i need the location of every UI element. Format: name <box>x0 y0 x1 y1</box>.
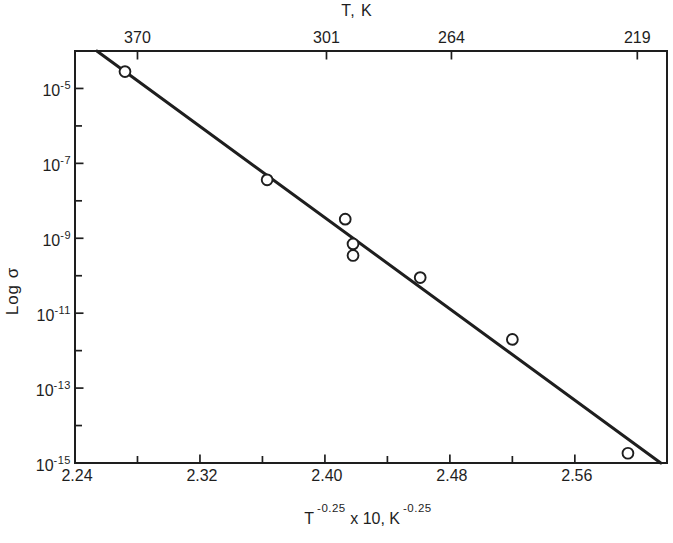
y-tick-label: 10-7 <box>0 151 71 176</box>
top-tick-label: 301 <box>296 29 356 47</box>
y-tick-base: 10 <box>36 382 54 399</box>
y-tick-label: 10-5 <box>0 76 71 101</box>
y-tick-exponent: -5 <box>60 79 71 91</box>
top-tick-label: 219 <box>607 29 667 47</box>
figure: T, K Log σ T-0.25 x 10, K-0.25 2.242.322… <box>0 0 673 543</box>
x-axis-title: T-0.25 x 10, K-0.25 <box>158 508 578 528</box>
plot-area <box>0 0 673 543</box>
data-point-marker <box>507 334 518 345</box>
data-point-marker <box>120 66 131 77</box>
y-tick-base: 10 <box>42 233 60 250</box>
y-tick-label: 10-11 <box>0 301 71 326</box>
y-tick-base: 10 <box>36 457 54 474</box>
data-point-marker <box>340 214 351 225</box>
x-title-exponent-1: -0.25 <box>317 502 346 514</box>
x-title-exponent-2: -0.25 <box>403 502 432 514</box>
top-axis-title: T, K <box>307 2 407 20</box>
y-tick-label: 10-9 <box>0 226 71 251</box>
y-tick-exponent: -9 <box>60 229 71 241</box>
x-tick-label: 2.48 <box>422 467 482 485</box>
x-title-middle: x 10, K <box>346 510 400 527</box>
y-tick-exponent: -13 <box>54 379 71 391</box>
top-tick-label: 264 <box>421 29 481 47</box>
y-tick-label: 10-15 <box>0 451 71 476</box>
data-point-marker <box>348 250 359 261</box>
fit-line <box>97 51 661 463</box>
top-tick-label: 370 <box>107 29 167 47</box>
y-tick-label: 10-13 <box>0 376 71 401</box>
data-point-marker <box>348 238 359 249</box>
y-tick-base: 10 <box>42 83 60 100</box>
x-tick-label: 2.56 <box>547 467 607 485</box>
data-point-marker <box>262 174 273 185</box>
y-tick-exponent: -7 <box>60 154 71 166</box>
y-tick-exponent: -15 <box>54 454 71 466</box>
y-tick-base: 10 <box>42 158 60 175</box>
y-tick-base: 10 <box>37 308 55 325</box>
y-tick-exponent: -11 <box>54 304 71 316</box>
data-point-marker <box>623 448 634 459</box>
x-tick-label: 2.32 <box>172 467 232 485</box>
x-tick-label: 2.40 <box>297 467 357 485</box>
data-point-marker <box>415 272 426 283</box>
x-title-base: T <box>304 510 314 527</box>
